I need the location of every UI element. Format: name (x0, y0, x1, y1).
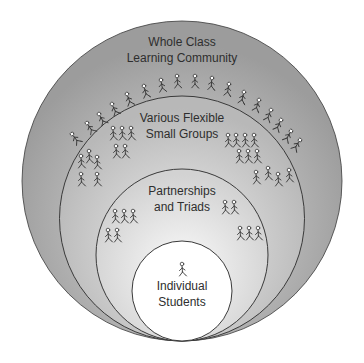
nested-circles-diagram: Whole Class Learning Community Various F… (0, 0, 364, 363)
whole-class-label-line1: Whole Class (148, 35, 215, 49)
individual-label-line2: Students (158, 295, 205, 309)
small-groups-label-line2: Small Groups (146, 127, 219, 141)
small-groups-label-line1: Various Flexible (140, 111, 225, 125)
partnerships-label-line1: Partnerships (148, 184, 215, 198)
individual-label-line1: Individual (157, 279, 208, 293)
circle-layers (22, 21, 342, 341)
partnerships-label-line2: and Triads (154, 200, 210, 214)
whole-class-label-line2: Learning Community (127, 51, 238, 65)
